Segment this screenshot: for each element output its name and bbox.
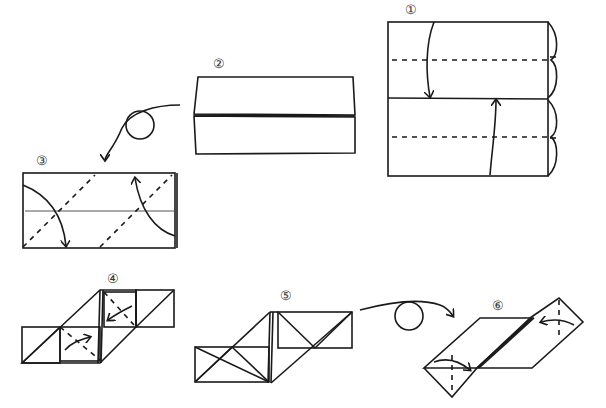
step-5-label: ⑤ (280, 289, 292, 302)
fold-arrow-right-tip (541, 320, 574, 325)
step-6-label: ⑥ (492, 299, 504, 312)
step-2-label: ② (213, 57, 225, 70)
fold-arrow-inner-right (108, 306, 132, 320)
origami-diagram (0, 0, 606, 408)
step-1-label: ① (405, 3, 417, 16)
step-2-diagram (194, 77, 355, 154)
fold-arrow-right (135, 178, 175, 236)
center-crease (388, 98, 548, 99)
step-3-label: ③ (36, 154, 48, 167)
turn-over-arrow-1 (105, 105, 180, 160)
step-4-label: ④ (107, 272, 119, 285)
step-4-diagram (22, 290, 174, 363)
step-5-diagram (195, 312, 352, 383)
equal-bracket-top (548, 22, 557, 98)
fold-line-left (60, 327, 100, 360)
step-3-diagram (23, 173, 177, 248)
step-1-diagram (388, 22, 557, 176)
fold-arrow-left (23, 185, 66, 246)
turn-over-arrow-2 (360, 301, 453, 330)
